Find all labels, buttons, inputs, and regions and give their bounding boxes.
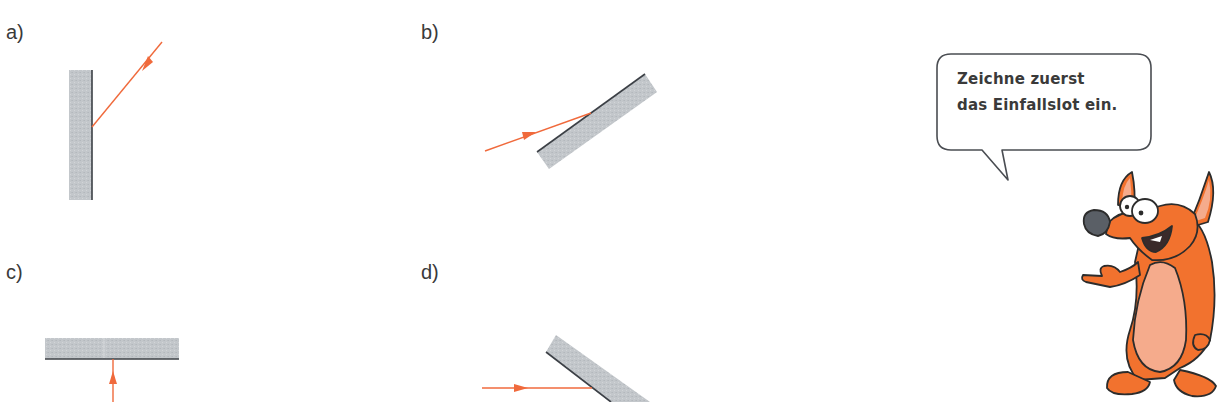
light-ray-d: [482, 384, 592, 392]
speech-bubble-line-2: das Einfallslot ein.: [957, 92, 1117, 118]
mirror-a: [69, 70, 92, 200]
mascot-character: [1082, 172, 1216, 396]
mirror-d: [546, 335, 650, 402]
arrow-icon: [109, 371, 117, 384]
arrow-icon: [514, 384, 528, 392]
speech-bubble-text: Zeichne zuerst das Einfallslot ein.: [957, 66, 1117, 118]
arrow-icon: [522, 132, 536, 140]
mirror-c: [45, 338, 179, 359]
diagram-canvas: [0, 0, 1220, 402]
light-ray-c: [109, 359, 117, 402]
speech-bubble-line-1: Zeichne zuerst: [957, 66, 1117, 92]
mirror-b: [537, 74, 657, 169]
light-ray-a: [92, 42, 162, 127]
